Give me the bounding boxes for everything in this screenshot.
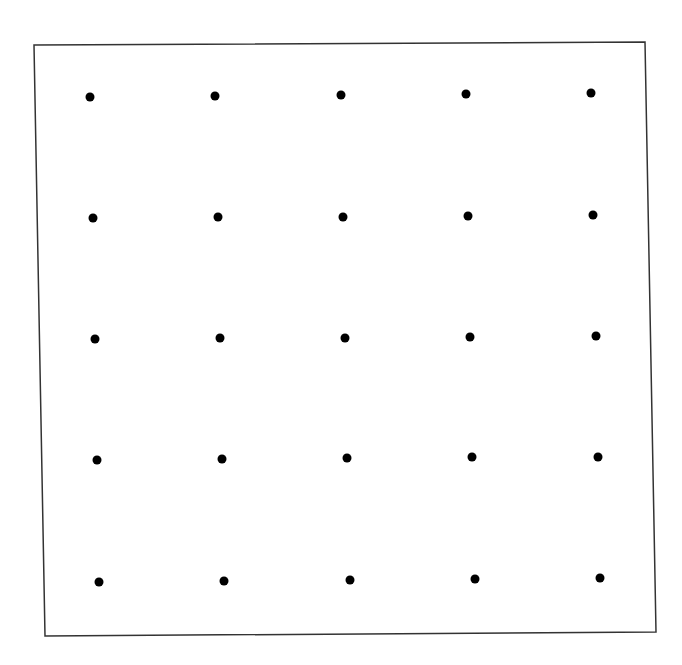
grid-dot-r4-c2 xyxy=(218,455,227,464)
grid-dot-r1-c1 xyxy=(86,93,95,102)
grid-dot-r2-c5 xyxy=(589,211,598,220)
grid-dot-r5-c4 xyxy=(471,575,480,584)
grid-dot-r1-c3 xyxy=(337,91,346,100)
grid-dot-r2-c3 xyxy=(339,213,348,222)
grid-dot-r3-c3 xyxy=(341,334,350,343)
dot-grid-diagram xyxy=(0,0,682,665)
grid-dot-r1-c2 xyxy=(211,92,220,101)
grid-dot-r3-c4 xyxy=(466,333,475,342)
grid-dot-r5-c3 xyxy=(346,576,355,585)
grid-dot-r3-c1 xyxy=(91,335,100,344)
grid-dot-r1-c4 xyxy=(462,90,471,99)
grid-dot-r2-c1 xyxy=(89,214,98,223)
dot-grid xyxy=(86,89,605,587)
grid-dot-r4-c5 xyxy=(594,453,603,462)
grid-dot-r4-c1 xyxy=(93,456,102,465)
grid-dot-r3-c2 xyxy=(216,334,225,343)
grid-dot-r3-c5 xyxy=(592,332,601,341)
grid-dot-r2-c4 xyxy=(464,212,473,221)
grid-dot-r2-c2 xyxy=(214,213,223,222)
grid-dot-r4-c4 xyxy=(468,453,477,462)
grid-dot-r5-c1 xyxy=(95,578,104,587)
grid-dot-r1-c5 xyxy=(587,89,596,98)
grid-dot-r4-c3 xyxy=(343,454,352,463)
grid-dot-r5-c5 xyxy=(596,574,605,583)
grid-dot-r5-c2 xyxy=(220,577,229,586)
